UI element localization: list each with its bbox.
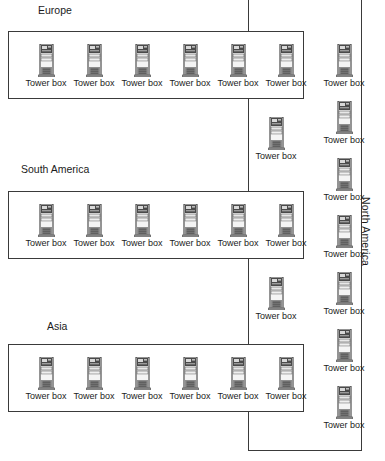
- region-title-europe: Europe: [38, 4, 72, 16]
- tower-box-label: Tower box: [316, 306, 372, 317]
- tower-box-node-na-right-4[interactable]: Tower box: [316, 215, 372, 260]
- region-box-europe: Tower boxTower boxTower boxTower boxTowe…: [8, 31, 304, 99]
- tower-box-icon: [38, 204, 55, 237]
- region-box-asia: Tower boxTower boxTower boxTower boxTowe…: [8, 344, 304, 412]
- tower-box-icon: [182, 357, 199, 390]
- tower-box-icon: [182, 204, 199, 237]
- tower-box-label: Tower box: [258, 391, 314, 402]
- tower-box-icon: [278, 204, 295, 237]
- tower-box-node-na-right-6[interactable]: Tower box: [316, 329, 372, 374]
- tower-box-label: Tower box: [248, 311, 304, 322]
- tower-box-node-na-middle-2[interactable]: Tower box: [248, 277, 304, 322]
- tower-box-icon: [268, 277, 285, 310]
- tower-box-icon: [336, 158, 353, 191]
- tower-box-label: Tower box: [316, 135, 372, 146]
- tower-box-icon: [336, 329, 353, 362]
- tower-box-label: Tower box: [258, 238, 314, 249]
- tower-box-node-3-6[interactable]: Tower box: [258, 357, 314, 402]
- region-title-asia: Asia: [47, 320, 67, 332]
- region-title-south-america: South America: [21, 163, 89, 175]
- tower-box-node-na-right-2[interactable]: Tower box: [316, 101, 372, 146]
- tower-box-node-1-6[interactable]: Tower box: [258, 44, 314, 89]
- tower-box-node-na-right-5[interactable]: Tower box: [316, 272, 372, 317]
- tower-box-node-na-right-3[interactable]: Tower box: [316, 158, 372, 203]
- tower-box-icon: [38, 357, 55, 390]
- tower-box-icon: [336, 386, 353, 419]
- tower-box-icon: [268, 117, 285, 150]
- tower-box-label: Tower box: [316, 78, 372, 89]
- tower-box-icon: [336, 272, 353, 305]
- tower-box-icon: [134, 204, 151, 237]
- tower-box-node-2-6[interactable]: Tower box: [258, 204, 314, 249]
- tower-box-icon: [278, 44, 295, 77]
- tower-box-node-na-right-1[interactable]: Tower box: [316, 44, 372, 89]
- tower-box-label: Tower box: [248, 151, 304, 162]
- tower-box-icon: [134, 44, 151, 77]
- tower-box-node-na-right-7[interactable]: Tower box: [316, 386, 372, 431]
- tower-box-icon: [278, 357, 295, 390]
- tower-box-icon: [182, 44, 199, 77]
- tower-box-label: Tower box: [316, 192, 372, 203]
- tower-box-icon: [230, 204, 247, 237]
- tower-box-icon: [336, 101, 353, 134]
- tower-box-icon: [134, 357, 151, 390]
- region-box-south-america: Tower boxTower boxTower boxTower boxTowe…: [8, 191, 304, 259]
- tower-box-label: Tower box: [316, 420, 372, 431]
- tower-box-icon: [38, 44, 55, 77]
- tower-box-label: Tower box: [258, 78, 314, 89]
- tower-box-icon: [86, 357, 103, 390]
- tower-box-node-na-middle-1[interactable]: Tower box: [248, 117, 304, 162]
- tower-box-icon: [86, 204, 103, 237]
- tower-box-icon: [230, 44, 247, 77]
- tower-box-icon: [86, 44, 103, 77]
- tower-box-icon: [230, 357, 247, 390]
- tower-box-icon: [336, 44, 353, 77]
- diagram-canvas: North America EuropeTower boxTower boxTo…: [0, 0, 385, 461]
- tower-box-label: Tower box: [316, 363, 372, 374]
- tower-box-icon: [336, 215, 353, 248]
- tower-box-label: Tower box: [316, 249, 372, 260]
